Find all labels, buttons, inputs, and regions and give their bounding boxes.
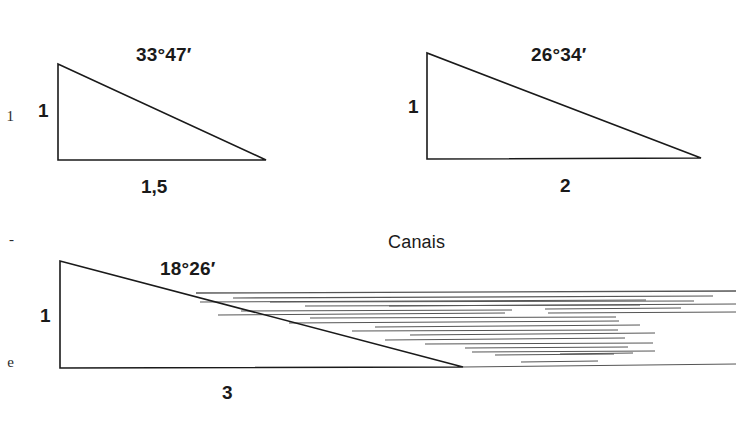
canal-hatch-line bbox=[352, 330, 618, 331]
canal-hatch-line bbox=[495, 354, 614, 355]
canal-hatch-line bbox=[465, 347, 628, 348]
canal-hatch-line bbox=[560, 353, 633, 354]
canal-hatch-line bbox=[521, 361, 598, 362]
canal-hatch-line bbox=[310, 317, 616, 318]
triangle-slope-1-to-1.5 bbox=[58, 64, 266, 160]
base-label-triangle-3: 3 bbox=[222, 382, 233, 404]
canal-hatch-line bbox=[463, 364, 736, 367]
triangle-slope-1-to-2 bbox=[427, 53, 701, 159]
canal-hatch-line bbox=[425, 343, 653, 344]
vertical-label-triangle-3: 1 bbox=[40, 305, 51, 327]
canal-hatch-line bbox=[410, 333, 655, 335]
canal-hatch-line bbox=[472, 351, 655, 352]
slope-diagram-canvas bbox=[0, 0, 736, 429]
base-label-triangle-1: 1,5 bbox=[141, 176, 167, 198]
canal-hatch-line bbox=[233, 296, 713, 298]
vertical-label-triangle-1: 1 bbox=[38, 100, 49, 122]
angle-label-triangle-3: 18°26′ bbox=[160, 258, 216, 280]
canal-hatch-line bbox=[289, 321, 619, 323]
canal-hatch-line bbox=[375, 325, 640, 327]
angle-label-triangle-1: 33°47′ bbox=[136, 44, 192, 66]
canal-hatch-line bbox=[241, 310, 512, 311]
triangle-slope-1-to-3 bbox=[60, 261, 463, 368]
canal-hatch-line bbox=[196, 291, 736, 293]
vertical-label-triangle-2: 1 bbox=[408, 96, 419, 118]
figure-root: 1 - e s e b a e a a 33°47′ 1 1,5 26°34′ … bbox=[0, 0, 736, 429]
angle-label-triangle-2: 26°34′ bbox=[531, 44, 587, 66]
canal-hatching-group bbox=[196, 291, 736, 367]
base-label-triangle-2: 2 bbox=[560, 175, 571, 197]
canais-caption: Canais bbox=[388, 232, 445, 253]
canal-hatch-line bbox=[385, 338, 625, 340]
canal-hatch-line bbox=[545, 308, 681, 309]
canal-hatch-line bbox=[548, 312, 736, 313]
